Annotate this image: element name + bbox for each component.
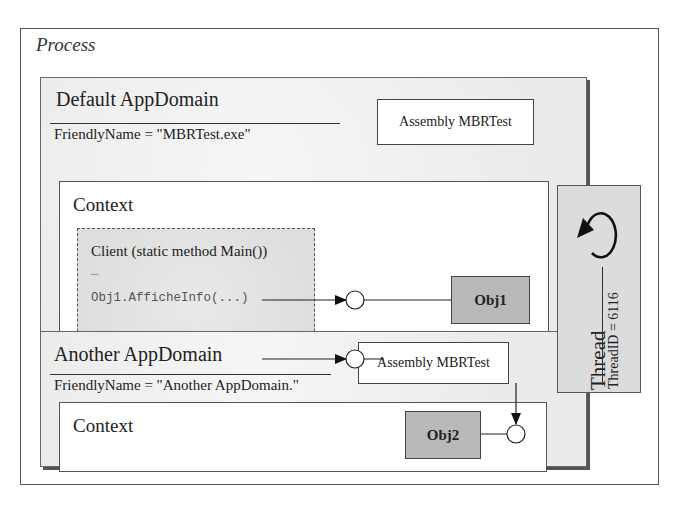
- proxy-interface-lollipop-icon: [346, 350, 384, 368]
- obj2-interface-lollipop-icon: [481, 425, 525, 443]
- circular-arrow-icon: [577, 213, 616, 257]
- obj1-interface-lollipop-icon: [346, 291, 451, 309]
- connectors-layer: [0, 0, 678, 505]
